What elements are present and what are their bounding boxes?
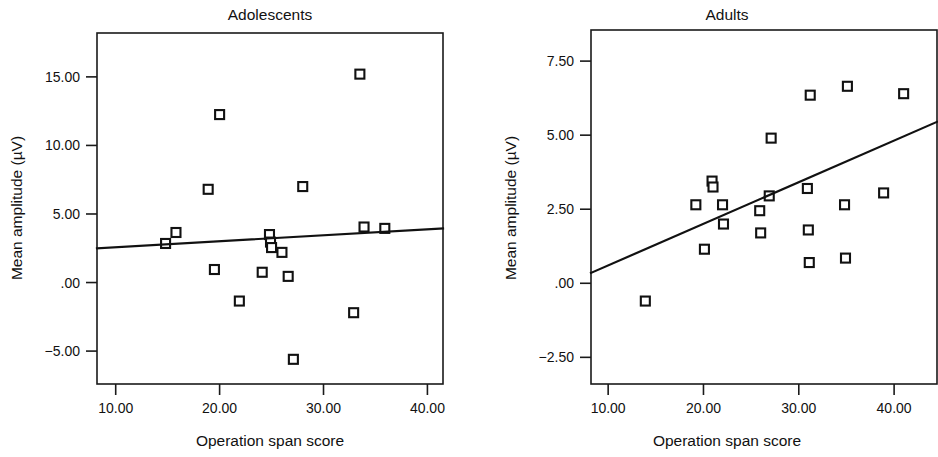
plot-frame — [97, 33, 443, 384]
x-tick-label: 10.00 — [98, 400, 133, 416]
data-point-marker — [277, 248, 286, 257]
x-tick-label: 40.00 — [410, 400, 445, 416]
scatter-plot-figure: Adolescents 15.0010.005.00.00−5.00 10.00… — [0, 0, 938, 457]
data-point-marker — [349, 308, 358, 317]
data-point-marker — [360, 223, 369, 232]
x-axis-ticks: 10.0020.0030.0040.00 — [591, 384, 912, 416]
x-tick-label: 40.00 — [877, 400, 912, 416]
data-point-marker — [258, 268, 267, 277]
data-point-marker — [806, 91, 815, 100]
panel-title-adults: Adults — [705, 6, 748, 23]
y-tick-label: 2.50 — [547, 201, 574, 217]
data-point-marker — [298, 182, 307, 191]
y-tick-label: −5.00 — [45, 343, 81, 359]
y-tick-label: 10.00 — [45, 137, 80, 153]
data-point-group — [161, 70, 389, 364]
data-point-marker — [899, 89, 908, 98]
adolescents-plot-svg: Adolescents 15.0010.005.00.00−5.00 10.00… — [0, 0, 469, 457]
data-point-marker — [700, 245, 709, 254]
data-point-marker — [289, 355, 298, 364]
y-tick-label: .00 — [61, 275, 81, 291]
x-tick-label: 30.00 — [781, 400, 816, 416]
data-point-marker — [204, 185, 213, 194]
x-axis-ticks: 10.0020.0030.0040.00 — [98, 384, 445, 416]
adults-plot-svg: Adults 7.505.002.50.00−2.50 10.0020.0030… — [469, 0, 938, 457]
x-tick-label: 30.00 — [306, 400, 341, 416]
data-point-marker — [719, 220, 728, 229]
y-axis-title: Mean amplitude (µV) — [8, 136, 25, 280]
adolescents-axes — [97, 33, 443, 384]
panel-adults: Adults 7.505.002.50.00−2.50 10.0020.0030… — [469, 0, 938, 457]
x-tick-label: 20.00 — [686, 400, 721, 416]
y-axis-ticks: 7.505.002.50.00−2.50 — [539, 53, 591, 365]
x-axis-title: Operation span score — [653, 432, 801, 449]
y-tick-label: 7.50 — [547, 53, 574, 69]
data-point-marker — [840, 200, 849, 209]
data-point-marker — [284, 272, 293, 281]
data-point-marker — [171, 228, 180, 237]
data-point-marker — [641, 297, 650, 306]
data-point-marker — [267, 243, 276, 252]
data-point-marker — [215, 110, 224, 119]
y-axis-title: Mean amplitude (µV) — [502, 136, 519, 280]
data-point-marker — [355, 70, 364, 79]
x-tick-label: 20.00 — [202, 400, 237, 416]
panel-adolescents: Adolescents 15.0010.005.00.00−5.00 10.00… — [0, 0, 469, 457]
x-tick-label: 10.00 — [591, 400, 626, 416]
data-point-marker — [804, 225, 813, 234]
data-point-marker — [210, 265, 219, 274]
data-point-marker — [803, 184, 812, 193]
y-tick-label: −2.50 — [539, 349, 575, 365]
data-point-marker — [718, 200, 727, 209]
data-point-marker — [756, 228, 765, 237]
panel-title-adolescents: Adolescents — [228, 6, 313, 23]
x-axis-title: Operation span score — [196, 432, 344, 449]
data-point-marker — [709, 183, 718, 192]
data-point-marker — [843, 82, 852, 91]
data-point-marker — [755, 206, 764, 215]
data-point-marker — [691, 200, 700, 209]
y-tick-label: .00 — [555, 275, 575, 291]
data-point-marker — [879, 188, 888, 197]
data-point-marker — [841, 254, 850, 263]
y-tick-label: 5.00 — [547, 127, 574, 143]
data-point-marker — [805, 258, 814, 267]
y-tick-label: 15.00 — [45, 69, 80, 85]
data-point-marker — [767, 134, 776, 143]
y-axis-ticks: 15.0010.005.00.00−5.00 — [45, 69, 97, 359]
data-point-marker — [235, 297, 244, 306]
y-tick-label: 5.00 — [53, 206, 80, 222]
